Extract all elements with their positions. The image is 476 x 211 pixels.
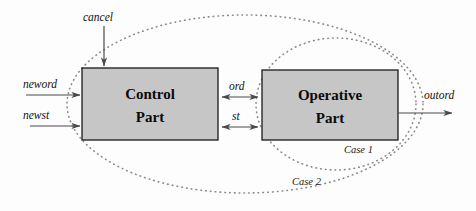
operative-part-label-line2: Part bbox=[316, 110, 344, 126]
case-2-label: Case 2 bbox=[292, 176, 322, 187]
control-part-label-line2: Part bbox=[136, 109, 164, 125]
block-diagram: Control Part Operative Part cancel newor… bbox=[0, 0, 476, 211]
outord-label: outord bbox=[424, 89, 454, 101]
ord-label: ord bbox=[229, 80, 245, 92]
operative-part-label-line1: Operative bbox=[298, 87, 362, 103]
case-1-label: Case 1 bbox=[344, 144, 373, 155]
diagram-canvas: Control Part Operative Part cancel newor… bbox=[0, 0, 476, 211]
neword-label: neword bbox=[23, 78, 57, 90]
control-part-block[interactable] bbox=[82, 68, 218, 140]
operative-part-block[interactable] bbox=[262, 70, 398, 140]
newst-label: newst bbox=[23, 109, 50, 121]
control-part-label-line1: Control bbox=[125, 86, 175, 102]
cancel-label: cancel bbox=[83, 11, 113, 23]
st-label: st bbox=[232, 110, 240, 122]
